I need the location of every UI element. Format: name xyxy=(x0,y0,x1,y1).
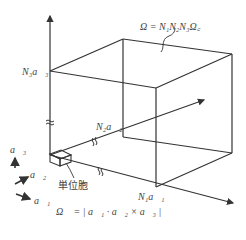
label-n3a3: N₃a⃗₃ xyxy=(22,67,48,77)
label-n1a1: N₁a⃗₁ xyxy=(138,192,164,202)
cell-volume-formula: Ω꜀ = | a⃗₁ · a⃗₂ × a⃗₃ | xyxy=(56,207,161,217)
legend-a1-arrow xyxy=(16,194,30,199)
box-edge xyxy=(156,153,232,187)
box-edge xyxy=(50,71,156,88)
legend-a2-label: a⃗₂ xyxy=(30,170,46,180)
a2-axis xyxy=(50,100,204,155)
unit-cell-pointer xyxy=(66,163,74,178)
box-edge xyxy=(123,39,232,54)
legend-a3-label: a⃗₃ xyxy=(10,145,26,155)
box-edge xyxy=(156,54,232,88)
legend-a1-label: a⃗₁ xyxy=(34,196,50,206)
label-n2a2: N₂a⃗₂ xyxy=(96,122,122,132)
omega-total-formula: Ω = N₁N₂N₃Ω꜀ xyxy=(140,22,200,32)
box-edge xyxy=(50,39,123,71)
label-unit-cell: 単位胞 xyxy=(58,181,88,191)
legend-a2-arrow xyxy=(15,177,28,184)
box-edge xyxy=(123,137,232,153)
